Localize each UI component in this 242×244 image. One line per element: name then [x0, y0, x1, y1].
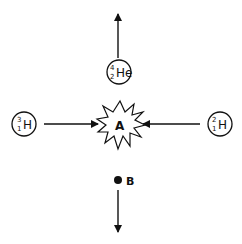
particle-deuterium: 2 1 H	[208, 112, 232, 136]
atomic-number: 1	[17, 125, 21, 133]
mass-number: 4	[110, 64, 115, 72]
product-label: B	[126, 175, 134, 188]
element-symbol: He	[116, 66, 132, 80]
reaction-center-a: A	[97, 101, 145, 149]
center-label: A	[115, 119, 125, 133]
fusion-diagram: 4 2 He 3 1 H 2 1 H A B	[0, 0, 242, 244]
element-symbol: H	[218, 118, 227, 132]
atomic-number: 2	[110, 73, 114, 81]
mass-number: 3	[17, 116, 21, 124]
element-symbol: H	[23, 118, 32, 132]
mass-number: 2	[212, 116, 216, 124]
atomic-number: 1	[212, 125, 216, 133]
particle-helium-4: 4 2 He	[107, 60, 132, 84]
dot-marker	[114, 176, 122, 184]
product-b: B	[114, 175, 134, 188]
particle-tritium: 3 1 H	[12, 112, 36, 136]
